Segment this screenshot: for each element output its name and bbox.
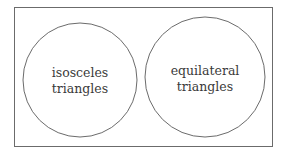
equilateral-label-line1: equilateral [171, 63, 240, 78]
equilateral-label-line2: triangles [177, 79, 233, 94]
isosceles-label-line2: triangles [52, 81, 108, 96]
venn-diagram: isosceles triangles equilateral triangle… [0, 0, 288, 156]
isosceles-circle [23, 23, 137, 137]
isosceles-label-line1: isosceles [52, 65, 109, 80]
